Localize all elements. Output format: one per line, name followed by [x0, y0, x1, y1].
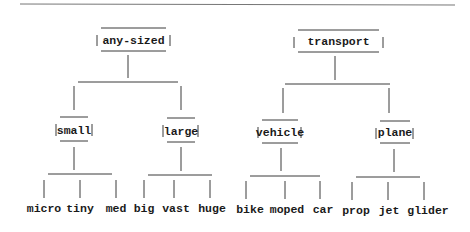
node-vehicle: vehicle [256, 120, 304, 143]
node-transport: transport [294, 30, 383, 52]
node-label-plane: plane [378, 126, 413, 139]
leaf-prop: prop [342, 204, 370, 217]
leaf-tiny: tiny [66, 202, 94, 215]
leaf-huge: huge [198, 202, 226, 215]
node-small: small [56, 117, 92, 141]
leaf-med: med [106, 202, 127, 215]
leaf-bike: bike [236, 203, 264, 216]
tree-transport: transport vehicle bike moped car plane [236, 30, 449, 217]
node-plane: plane [376, 121, 413, 143]
leaf-jet: jet [379, 204, 400, 217]
leaf-vast: vast [162, 202, 190, 215]
node-label-any-sized: any-sized [102, 34, 164, 47]
node-label-vehicle: vehicle [256, 126, 304, 139]
node-label-transport: transport [307, 35, 369, 48]
node-label-small: small [57, 124, 92, 137]
leaf-car: car [313, 203, 334, 216]
node-any-sized: any-sized [97, 28, 170, 51]
leaf-glider: glider [407, 204, 449, 217]
tree-diagram: any-sized small micro tiny med large [0, 0, 470, 232]
node-large: large [163, 118, 198, 142]
tree-any-sized: any-sized small micro tiny med large [27, 28, 226, 215]
leaf-micro: micro [27, 202, 62, 215]
leaf-big: big [134, 202, 155, 215]
top-rule [20, 4, 455, 5]
leaf-moped: moped [270, 203, 305, 216]
node-label-large: large [164, 125, 199, 138]
